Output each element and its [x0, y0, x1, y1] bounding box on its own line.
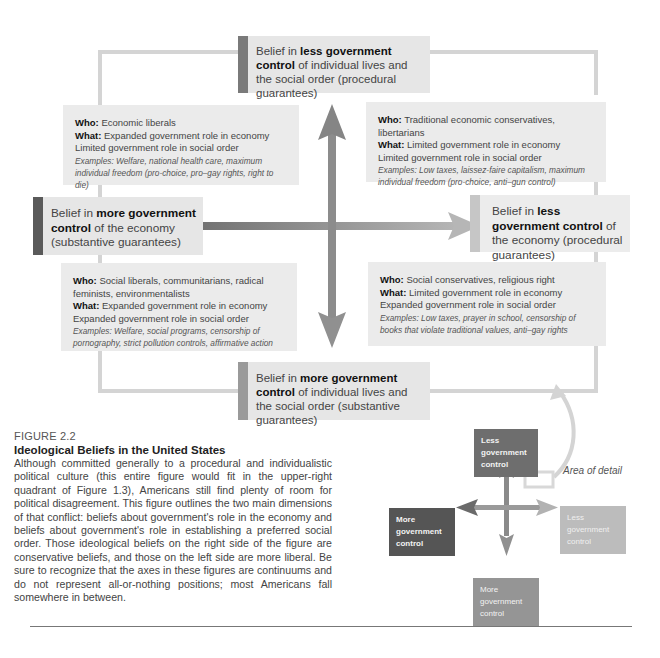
figure-number: FIGURE 2.2	[14, 430, 332, 442]
inset-box-top-less-control: Less government control	[474, 429, 538, 477]
what-label: What:	[75, 130, 101, 141]
what-value-economy: Limited government role in economy	[404, 139, 560, 150]
who-value: Social liberals, communitarians, radical…	[73, 275, 264, 299]
what-label: What:	[380, 287, 406, 298]
who-value: Social conservatives, religious right	[404, 274, 555, 285]
figure-title: Ideological Beliefs in the United States	[14, 444, 332, 456]
who-label: Who:	[73, 275, 97, 286]
inset-box-bottom-more-control: More government control	[473, 578, 539, 626]
examples-text: Examples: Low taxes, prayer in school, c…	[380, 312, 596, 336]
what-value-social: Limited government role in social order	[378, 152, 596, 165]
examples-text: Examples: Welfare, social programs, cens…	[73, 325, 287, 349]
what-value-economy: Expanded government role in economy	[99, 300, 267, 311]
who-label: Who:	[75, 117, 99, 128]
quadrant-upper-right-economic-conservatives: Who: Traditional economic conservatives,…	[366, 102, 606, 182]
pole-left-more-economic-control: Belief in more government control of the…	[33, 197, 203, 255]
inset-box-right-less-control: Less government control	[560, 506, 626, 554]
quadrant-lower-right-social-conservatives: Who: Social conservatives, religious rig…	[368, 262, 606, 346]
examples-text: Examples: Welfare, national health care,…	[75, 155, 289, 191]
figure-description: Although committed generally to a proced…	[14, 457, 332, 604]
who-label: Who:	[378, 114, 402, 125]
inset-box-left-more-control: More government control	[389, 508, 455, 556]
quadrant-upper-left-economic-liberals: Who: Economic liberals What: Expanded go…	[63, 105, 299, 185]
bottom-divider	[30, 626, 632, 627]
what-value-social: Expanded government role in social order	[73, 313, 287, 326]
pole-right-less-economic-control: Belief in less government control of the…	[470, 195, 630, 252]
what-label: What:	[73, 300, 99, 311]
pole-color-bar	[238, 36, 248, 93]
pole-text-prefix: Belief in	[492, 204, 537, 218]
pole-color-bar	[33, 197, 43, 255]
examples-text: Examples: Low taxes, laissez-faire capit…	[378, 164, 596, 188]
pole-color-bar	[238, 362, 248, 420]
who-label: Who:	[380, 274, 404, 285]
what-value-social: Limited government role in social order	[75, 142, 289, 155]
who-value: Economic liberals	[99, 117, 176, 128]
what-value-social: Expanded government role in social order	[380, 299, 596, 312]
figure-caption: FIGURE 2.2 Ideological Beliefs in the Un…	[14, 430, 332, 604]
area-of-detail-label: Area of detail	[563, 465, 622, 476]
pole-color-bar	[470, 195, 480, 252]
pole-text-prefix: Belief in	[51, 206, 96, 220]
quadrant-lower-left-social-liberals: Who: Social liberals, communitarians, ra…	[61, 263, 297, 351]
what-label: What:	[378, 139, 404, 150]
pole-top-less-social-control: Belief in less government control of ind…	[238, 36, 430, 93]
what-value-economy: Expanded government role in economy	[101, 130, 269, 141]
pole-text-prefix: Belief in	[256, 45, 300, 57]
what-value-economy: Limited government role in economy	[406, 287, 562, 298]
who-value: Traditional economic conservatives, libe…	[378, 114, 555, 138]
pole-text-prefix: Belief in	[256, 372, 300, 384]
